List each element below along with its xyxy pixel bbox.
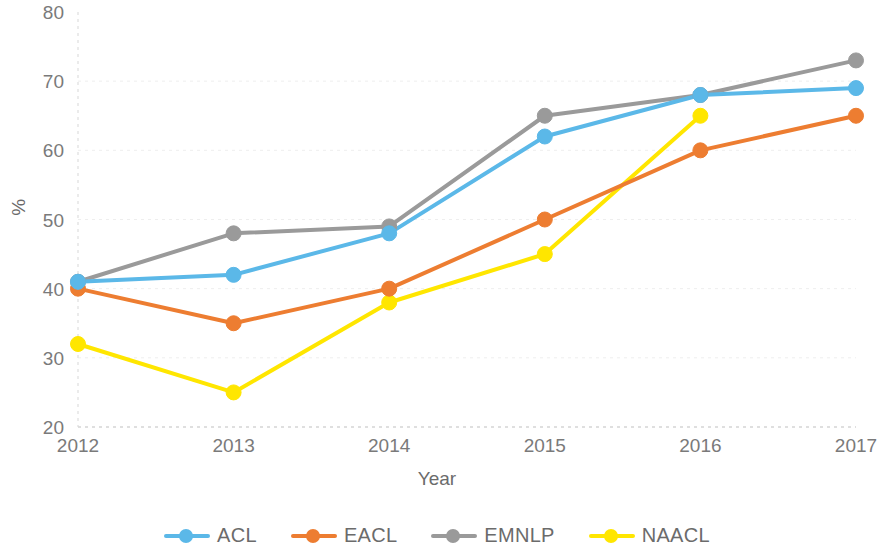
legend-marker-icon [431, 528, 477, 544]
legend-item-eacl[interactable]: EACL [291, 524, 397, 547]
data-point-eacl [693, 143, 708, 158]
data-point-acl [382, 226, 397, 241]
data-point-acl [849, 81, 864, 96]
series-markers [71, 53, 864, 400]
legend-label: EMNLP [484, 524, 554, 547]
data-point-eacl [849, 108, 864, 123]
legend-marker-icon [589, 528, 635, 544]
chart-legend: ACLEACLEMNLPNAACL [0, 524, 874, 547]
data-point-acl [71, 274, 86, 289]
legend-item-emnlp[interactable]: EMNLP [431, 524, 554, 547]
data-point-naacl [71, 337, 86, 352]
axis-lines [78, 12, 856, 427]
plot-area [0, 0, 874, 440]
data-point-naacl [382, 295, 397, 310]
data-point-naacl [226, 385, 241, 400]
data-point-naacl [537, 247, 552, 262]
legend-label: NAACL [642, 524, 710, 547]
data-point-naacl [693, 108, 708, 123]
data-point-emnlp [849, 53, 864, 68]
data-point-eacl [382, 281, 397, 296]
legend-label: ACL [217, 524, 257, 547]
data-point-emnlp [537, 108, 552, 123]
legend-marker-icon [291, 528, 337, 544]
x-axis-title: Year [0, 468, 874, 490]
data-point-emnlp [226, 226, 241, 241]
series-line-eacl [78, 116, 856, 324]
legend-marker-icon [164, 528, 210, 544]
data-point-eacl [226, 316, 241, 331]
data-point-acl [537, 129, 552, 144]
data-point-eacl [537, 212, 552, 227]
data-point-acl [693, 88, 708, 103]
legend-item-naacl[interactable]: NAACL [589, 524, 710, 547]
legend-label: EACL [344, 524, 397, 547]
legend-item-acl[interactable]: ACL [164, 524, 257, 547]
series-lines [78, 60, 856, 392]
data-point-acl [226, 267, 241, 282]
